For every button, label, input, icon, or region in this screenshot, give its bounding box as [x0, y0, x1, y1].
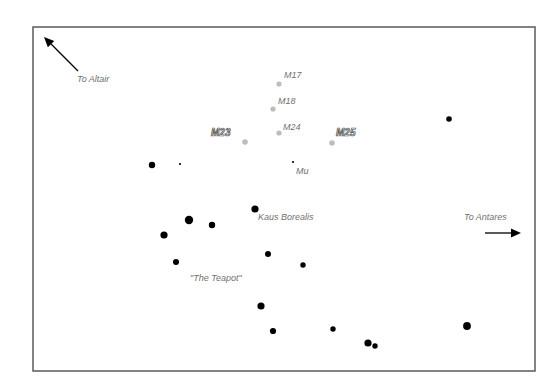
star — [372, 343, 377, 348]
star — [179, 163, 181, 165]
cluster-label: M23 — [211, 127, 231, 138]
star — [446, 116, 452, 122]
cluster-label: M24 — [283, 122, 301, 132]
star-dot — [364, 339, 371, 346]
star-dot — [270, 328, 276, 334]
star-label: Mu — [296, 166, 309, 176]
star-dot — [372, 343, 377, 348]
cluster-m24: M24 — [276, 122, 300, 136]
direction-label: To Antares — [464, 212, 507, 222]
star-chart: To AltairTo Antares M17M18M24M23M25 MuKa… — [0, 0, 549, 386]
star-dot — [257, 302, 264, 309]
star-dot — [265, 251, 271, 257]
star-dot — [149, 162, 155, 168]
cluster-marker — [329, 140, 335, 146]
cluster-marker — [276, 130, 281, 135]
direction-markers: To AltairTo Antares — [44, 37, 521, 238]
cluster-marker — [242, 139, 248, 145]
star — [160, 231, 167, 238]
arrow-line — [51, 44, 78, 71]
cluster-m18: M18 — [270, 96, 295, 112]
star-dot — [160, 231, 167, 238]
cluster-m17: M17 — [276, 70, 302, 87]
cluster-label: M17 — [284, 70, 303, 80]
star — [330, 326, 335, 331]
cluster-m23: M23 — [211, 127, 248, 145]
star-dot — [292, 161, 294, 163]
stars: MuKaus Borealis — [149, 116, 471, 348]
direction-altair: To Altair — [44, 37, 110, 84]
star — [173, 259, 179, 265]
star-dot — [185, 216, 193, 224]
star-label: Kaus Borealis — [258, 212, 314, 222]
star — [300, 262, 305, 267]
star-dot — [300, 262, 305, 267]
star — [257, 302, 264, 309]
star-dot — [446, 116, 452, 122]
star — [270, 328, 276, 334]
star-dot — [173, 259, 179, 265]
star-dot — [209, 222, 215, 228]
star — [185, 216, 193, 224]
star — [265, 251, 271, 257]
star-dot — [463, 322, 471, 330]
star-dot — [330, 326, 335, 331]
star — [149, 162, 155, 168]
asterism-label: "The Teapot" — [190, 273, 242, 283]
star-dot — [179, 163, 181, 165]
star — [209, 222, 215, 228]
star — [463, 322, 471, 330]
star — [364, 339, 371, 346]
cluster-m25: M25 — [329, 127, 356, 146]
cluster-label: M25 — [336, 127, 356, 138]
star-mu: Mu — [292, 161, 309, 176]
direction-label: To Altair — [77, 74, 110, 84]
cluster-marker — [276, 81, 281, 86]
direction-antares: To Antares — [464, 212, 521, 238]
cluster-marker — [270, 106, 275, 111]
star-kaus-borealis: Kaus Borealis — [251, 205, 314, 222]
star-clusters: M17M18M24M23M25 — [211, 70, 356, 146]
annotations: "The Teapot" — [190, 273, 242, 283]
arrow-head-icon — [511, 229, 521, 238]
cluster-label: M18 — [278, 96, 296, 106]
